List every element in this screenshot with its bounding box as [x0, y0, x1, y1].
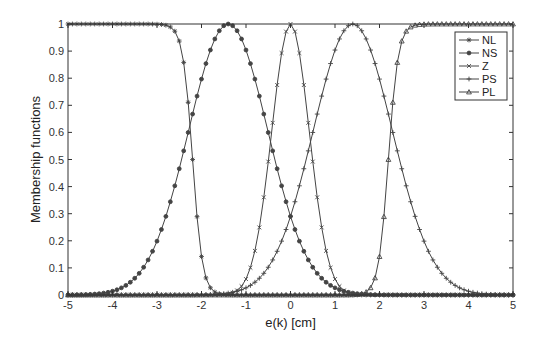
y-tick-label: 0.4	[49, 181, 64, 193]
x-tick-label: 1	[332, 299, 338, 311]
data-marker	[311, 265, 315, 269]
data-marker	[195, 94, 199, 98]
axis-ticks: -5-4-3-2-101234500.10.20.30.40.50.60.70.…	[49, 18, 516, 311]
data-marker	[253, 77, 257, 81]
data-marker	[467, 51, 471, 55]
y-tick-label: 0.6	[49, 126, 64, 138]
series-line	[68, 24, 513, 295]
y-tick-label: 0.1	[49, 262, 64, 274]
data-marker	[164, 214, 168, 218]
data-marker	[208, 48, 212, 52]
x-tick-label: -5	[63, 299, 73, 311]
y-tick-label: 0.5	[49, 154, 64, 166]
data-marker	[115, 288, 119, 292]
x-tick-label: 0	[287, 299, 293, 311]
series-ns	[66, 22, 515, 297]
data-marker	[302, 249, 306, 253]
series-line	[68, 24, 513, 295]
data-marker	[329, 283, 333, 287]
data-marker	[151, 249, 155, 253]
data-marker	[266, 131, 270, 135]
data-marker	[333, 286, 337, 290]
membership-functions-chart: -5-4-3-2-101234500.10.20.30.40.50.60.70.…	[0, 0, 540, 353]
data-marker	[160, 228, 164, 232]
data-marker	[142, 265, 146, 269]
y-tick-label: 0.9	[49, 45, 64, 57]
x-tick-label: 3	[421, 299, 427, 311]
series-line	[68, 24, 513, 295]
data-marker	[217, 29, 221, 33]
x-tick-label: 2	[376, 299, 382, 311]
x-tick-label: 5	[510, 299, 516, 311]
data-marker	[315, 271, 319, 275]
data-marker	[324, 280, 328, 284]
series-pl	[66, 22, 516, 297]
x-tick-label: -1	[241, 299, 251, 311]
y-tick-label: 0	[58, 289, 64, 301]
data-marker	[244, 48, 248, 52]
data-marker	[235, 29, 239, 33]
series-line	[68, 24, 513, 295]
data-marker	[119, 286, 123, 290]
data-marker	[133, 276, 137, 280]
x-tick-label: 4	[465, 299, 471, 311]
y-tick-label: 0.3	[49, 208, 64, 220]
data-marker	[257, 94, 261, 98]
data-marker	[186, 131, 190, 135]
data-marker	[168, 200, 172, 204]
data-marker	[284, 200, 288, 204]
series-z	[66, 22, 515, 297]
data-marker	[155, 239, 159, 243]
x-tick-label: -2	[197, 299, 207, 311]
data-marker	[128, 280, 132, 284]
legend: NLNSZPSPL	[455, 32, 507, 100]
legend-label: PS	[482, 73, 497, 85]
data-marker	[200, 77, 204, 81]
y-tick-label: 0.8	[49, 72, 64, 84]
data-marker	[306, 258, 310, 262]
y-tick-label: 0.2	[49, 235, 64, 247]
data-marker	[338, 288, 342, 292]
y-tick-label: 0.7	[49, 99, 64, 111]
data-marker	[275, 167, 279, 171]
data-marker	[280, 184, 284, 188]
series-layer	[66, 22, 516, 298]
x-tick-label: -3	[152, 299, 162, 311]
data-marker	[177, 167, 181, 171]
axes-box	[68, 24, 513, 295]
series-line	[68, 24, 513, 295]
legend-label: PL	[482, 86, 495, 98]
data-marker	[213, 37, 217, 41]
data-marker	[146, 258, 150, 262]
x-tick-label: -4	[108, 299, 118, 311]
data-marker	[293, 228, 297, 232]
data-marker	[204, 62, 208, 66]
data-marker	[297, 239, 301, 243]
series-ps	[66, 22, 516, 298]
legend-label: NL	[482, 34, 496, 46]
data-marker	[173, 184, 177, 188]
data-marker	[240, 37, 244, 41]
data-marker	[182, 149, 186, 153]
legend-label: NS	[482, 47, 497, 59]
data-marker	[124, 283, 128, 287]
x-axis-label: e(k) [cm]	[265, 315, 316, 330]
y-axis-label: Membership functions	[28, 95, 43, 223]
data-marker	[191, 112, 195, 116]
data-marker	[249, 62, 253, 66]
data-marker	[271, 149, 275, 153]
series-nl	[66, 22, 516, 298]
y-tick-label: 1	[58, 18, 64, 30]
data-marker	[320, 276, 324, 280]
data-marker	[137, 271, 141, 275]
data-marker	[262, 112, 266, 116]
legend-label: Z	[482, 60, 489, 72]
